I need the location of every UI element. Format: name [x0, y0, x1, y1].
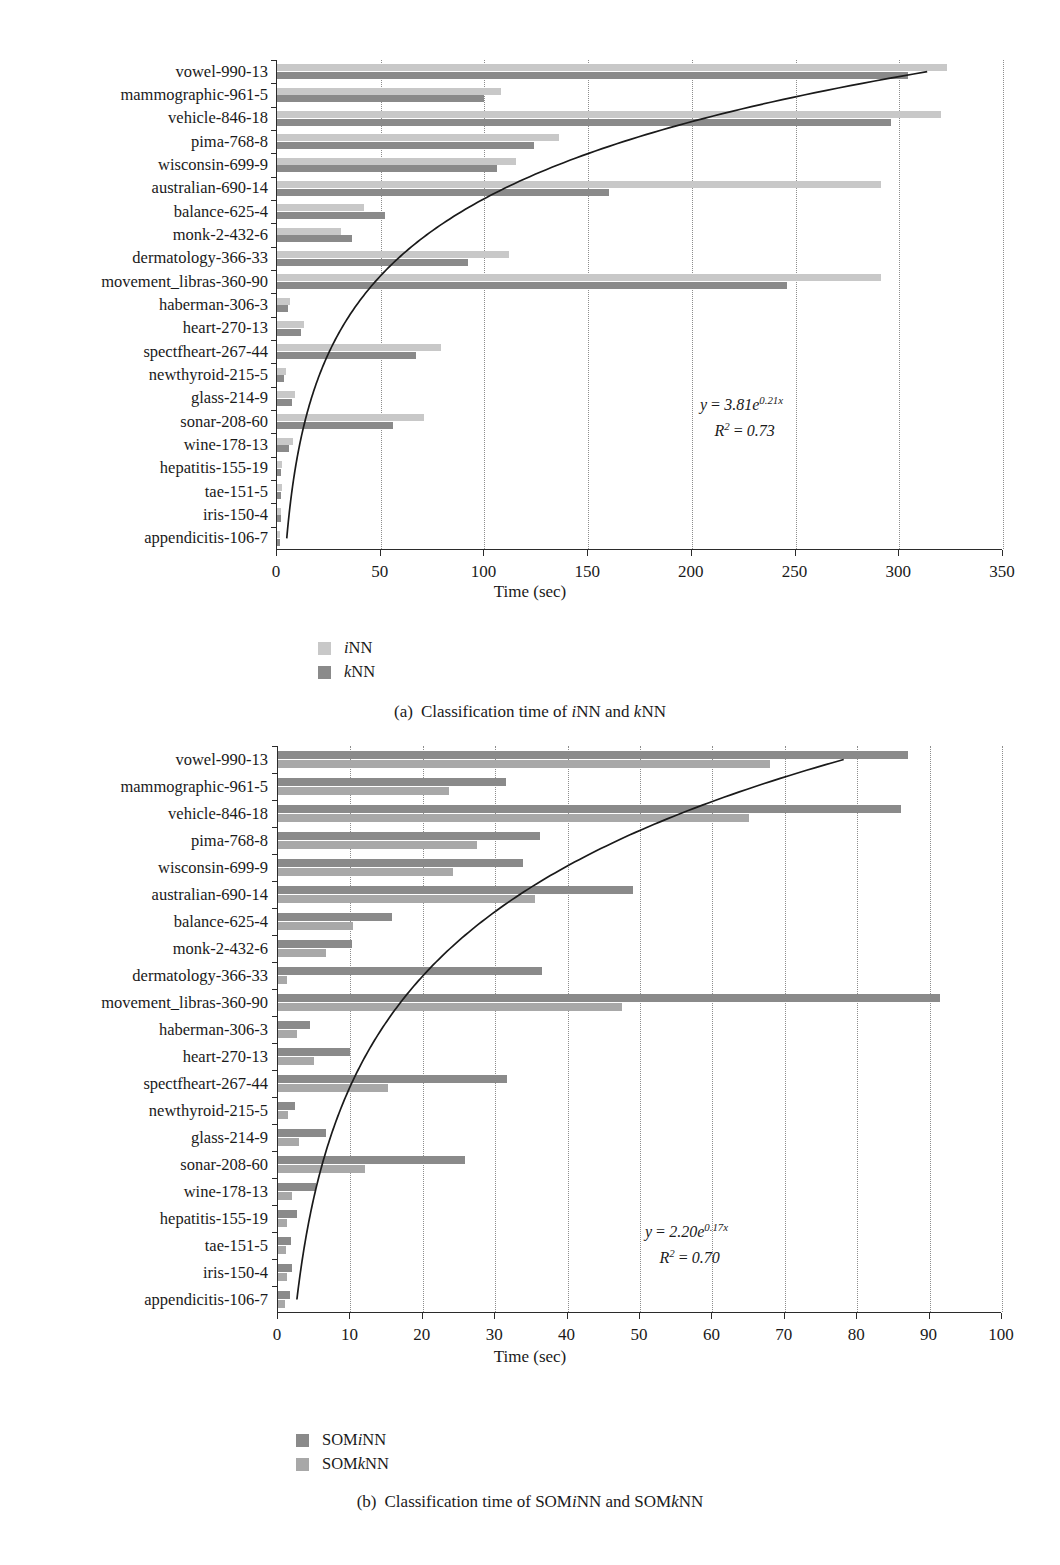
category-label: mammographic-961-5	[120, 778, 268, 795]
legend-item[interactable]: iNN	[318, 636, 375, 660]
x-axis-tick-label: 250	[782, 562, 808, 582]
category-label: spectfheart-267-44	[143, 1075, 268, 1092]
category-label: movement_libras-360-90	[101, 273, 268, 290]
x-axis-tick	[711, 1313, 712, 1319]
x-axis-tick-label: 80	[848, 1325, 865, 1345]
x-axis-tick	[277, 1313, 278, 1319]
legend-label: kNN	[344, 662, 375, 682]
x-axis-title-a: Time (sec)	[0, 582, 1060, 602]
legend-label: SOMkNN	[322, 1454, 389, 1474]
category-label: sonar-208-60	[180, 413, 268, 430]
caption: (b)Classification time of SOMiNN and SOM…	[0, 1492, 1060, 1512]
category-label: wine-178-13	[184, 1183, 268, 1200]
x-axis-tick-label: 100	[988, 1325, 1014, 1345]
y-axis-category-labels-a: vowel-990-13mammographic-961-5vehicle-84…	[40, 60, 268, 550]
category-label: dermatology-366-33	[132, 967, 268, 984]
category-label: glass-214-9	[191, 1129, 268, 1146]
category-label: wisconsin-699-9	[158, 157, 268, 174]
category-label: spectfheart-267-44	[143, 343, 268, 360]
x-axis-tick	[567, 1313, 568, 1319]
x-axis-tick	[494, 1313, 495, 1319]
category-label: wine-178-13	[184, 437, 268, 454]
legend-b: SOMiNNSOMkNN	[296, 1428, 389, 1476]
x-axis-tick	[276, 550, 277, 556]
legend-swatch-icon	[318, 642, 331, 655]
legend-item[interactable]: SOMiNN	[296, 1428, 389, 1452]
x-axis-tick	[856, 1313, 857, 1319]
category-label: hepatitis-155-19	[160, 1210, 268, 1227]
category-label: balance-625-4	[174, 203, 268, 220]
category-label: vehicle-846-18	[168, 805, 268, 822]
category-label: vowel-990-13	[175, 751, 268, 768]
category-label: tae-151-5	[205, 483, 268, 500]
category-label: appendicitis-106-7	[144, 530, 268, 547]
category-label: glass-214-9	[191, 390, 268, 407]
trend-r2-a: R2 = 0.73	[700, 418, 783, 444]
category-label: australian-690-14	[152, 180, 268, 197]
figure-page: vowel-990-13mammographic-961-5vehicle-84…	[0, 0, 1060, 1565]
caption-prefix: (a)	[394, 702, 413, 721]
x-axis-tick-label: 50	[631, 1325, 648, 1345]
category-label: vehicle-846-18	[168, 110, 268, 127]
x-axis-tick-label: 200	[678, 562, 704, 582]
x-axis-tick	[483, 550, 484, 556]
category-label: newthyroid-215-5	[149, 367, 268, 384]
x-axis-tick-label: 70	[775, 1325, 792, 1345]
x-axis-tick-label: 350	[989, 562, 1015, 582]
category-label: balance-625-4	[174, 913, 268, 930]
trend-equation-a: y = 3.81e0.21x	[700, 392, 783, 418]
legend-swatch-icon	[296, 1458, 309, 1471]
x-axis-tick	[587, 550, 588, 556]
category-label: hepatitis-155-19	[160, 460, 268, 477]
trendline-curve	[277, 60, 1003, 550]
x-axis-tick-label: 0	[273, 1325, 282, 1345]
legend-item[interactable]: kNN	[318, 660, 375, 684]
x-axis-title-b: Time (sec)	[0, 1347, 1060, 1367]
plot-area-a	[276, 60, 1002, 550]
category-label: dermatology-366-33	[132, 250, 268, 267]
x-axis-tick-label: 150	[574, 562, 600, 582]
x-axis-tick-label: 300	[886, 562, 912, 582]
legend-item[interactable]: SOMkNN	[296, 1452, 389, 1476]
x-axis-tick	[349, 1313, 350, 1319]
legend-swatch-icon	[318, 666, 331, 679]
category-label: haberman-306-3	[159, 1021, 268, 1038]
plot-area-b	[277, 746, 1001, 1313]
category-label: wisconsin-699-9	[158, 859, 268, 876]
x-axis-tick	[1001, 1313, 1002, 1319]
trendline-curve	[278, 746, 1002, 1313]
x-axis-tick	[784, 1313, 785, 1319]
legend-label: SOMiNN	[322, 1430, 386, 1450]
x-axis-tick	[639, 1313, 640, 1319]
x-axis-tick	[795, 550, 796, 556]
category-label: haberman-306-3	[159, 297, 268, 314]
category-label: heart-270-13	[183, 320, 268, 337]
category-label: monk-2-432-6	[173, 227, 268, 244]
category-label: tae-151-5	[205, 1237, 268, 1254]
category-label: newthyroid-215-5	[149, 1102, 268, 1119]
category-label: heart-270-13	[183, 1048, 268, 1065]
category-label: pima-768-8	[191, 832, 268, 849]
category-label: vowel-990-13	[175, 63, 268, 80]
category-label: australian-690-14	[152, 886, 268, 903]
x-axis-tick-label: 40	[558, 1325, 575, 1345]
x-axis-tick	[422, 1313, 423, 1319]
x-axis-tick-label: 100	[471, 562, 497, 582]
category-label: pima-768-8	[191, 133, 268, 150]
x-axis-tick	[929, 1313, 930, 1319]
x-axis-tick-label: 10	[341, 1325, 358, 1345]
gridline	[1003, 60, 1004, 549]
x-axis-tick-label: 60	[703, 1325, 720, 1345]
x-axis-tick-label: 20	[413, 1325, 430, 1345]
category-label: movement_libras-360-90	[101, 994, 268, 1011]
caption-prefix: (b)	[357, 1492, 377, 1511]
legend-label: iNN	[344, 638, 372, 658]
category-label: iris-150-4	[203, 507, 268, 524]
x-axis-tick-label: 0	[272, 562, 281, 582]
category-label: mammographic-961-5	[120, 87, 268, 104]
category-label: appendicitis-106-7	[144, 1291, 268, 1308]
legend-swatch-icon	[296, 1434, 309, 1447]
x-axis-tick-label: 90	[920, 1325, 937, 1345]
caption-text: Classification time of iNN and kNN	[421, 702, 666, 721]
x-axis-tick	[380, 550, 381, 556]
